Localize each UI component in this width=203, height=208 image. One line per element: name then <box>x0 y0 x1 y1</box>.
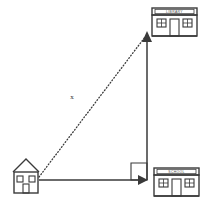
geometry-diagram: x LIBRARY <box>0 0 203 208</box>
school-sign-text: SCHOOL <box>168 170 184 174</box>
vertical-segment <box>142 31 152 180</box>
base-segment <box>39 175 148 185</box>
diagram-svg: x LIBRARY <box>0 0 203 208</box>
library-sign-text: LIBRARY <box>166 10 183 14</box>
unknown-length-label: x <box>70 93 74 101</box>
school-figure: SCHOOL <box>154 168 199 196</box>
hypotenuse-segment <box>39 37 145 177</box>
library-figure: LIBRARY <box>152 8 197 36</box>
house-figure <box>13 159 39 193</box>
